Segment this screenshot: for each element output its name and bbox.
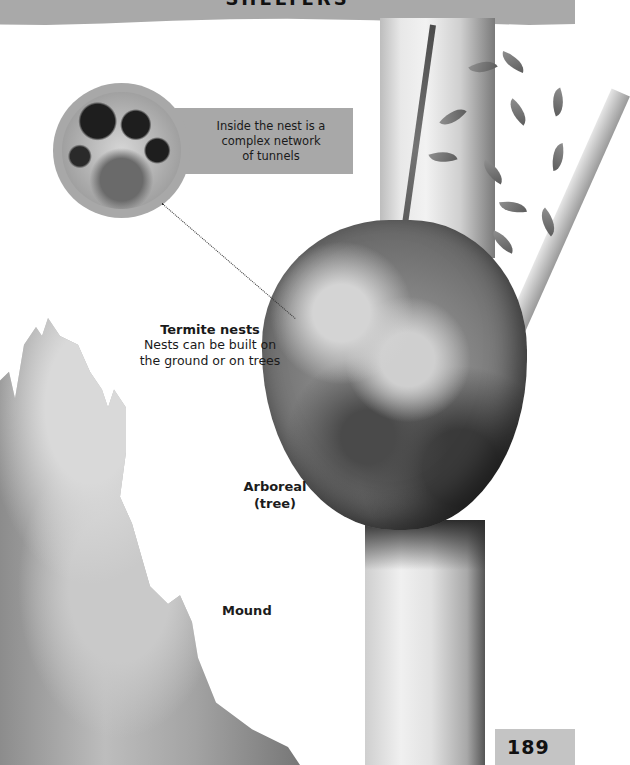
termite-nests-desc-line: Nests can be built on — [110, 337, 310, 353]
arboreal-label-line: Arboreal — [230, 478, 320, 495]
page-number-box: 189 — [495, 729, 575, 765]
callout-line: of tunnels — [217, 149, 326, 164]
termite-nests-title: Termite nests — [110, 322, 310, 337]
chapter-title: SHELTERS — [0, 0, 575, 9]
callout-line: Inside the nest is a — [217, 119, 326, 134]
leader-line — [162, 203, 296, 319]
arboreal-label-line: (tree) — [230, 495, 320, 512]
callout-text: Inside the nest is a complex network of … — [203, 119, 326, 164]
mound-label: Mound — [222, 603, 272, 618]
termite-mound-illustration — [0, 318, 300, 765]
leaf-icon — [504, 98, 533, 125]
arboreal-label: Arboreal (tree) — [230, 478, 320, 512]
page-number: 189 — [507, 736, 550, 758]
termite-tunnels-photo — [62, 92, 181, 209]
leaf-icon — [499, 198, 527, 216]
callout-line: complex network — [217, 134, 326, 149]
leaf-icon — [549, 143, 567, 171]
callout-box: Inside the nest is a complex network of … — [175, 108, 353, 174]
leaf-icon — [498, 51, 527, 73]
termite-nests-label: Termite nests Nests can be built on the … — [110, 322, 310, 369]
termite-nests-desc-line: the ground or on trees — [110, 353, 310, 369]
leaf-icon — [547, 87, 569, 116]
